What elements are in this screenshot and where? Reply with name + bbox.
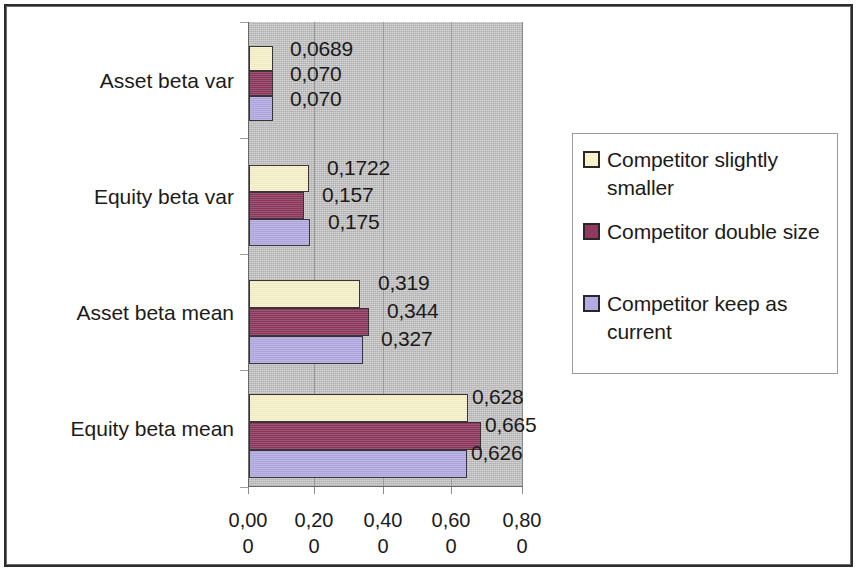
- bar-texture: [250, 166, 308, 191]
- bar-asset-beta-mean-keep-current: [249, 336, 363, 364]
- value-tick-080: [522, 487, 523, 494]
- category-label-asset-beta-var: Asset beta var: [48, 70, 234, 91]
- value-axis-label-080: 0,80 0: [489, 508, 555, 559]
- bar-value-asset-beta-mean-slightly-smaller: 0,319: [378, 272, 430, 293]
- bar-texture: [250, 337, 362, 363]
- bar-equity-beta-mean-slightly-smaller: [249, 394, 468, 422]
- value-axis-label-000: 0,00 0: [215, 508, 281, 559]
- legend-item-competitor-slightly-smaller[interactable]: Competitor slightly smaller: [583, 146, 835, 201]
- category-label-equity-beta-mean: Equity beta mean: [30, 418, 234, 439]
- bar-texture: [250, 72, 272, 95]
- bar-value-equity-beta-var-keep-current: 0,175: [328, 211, 380, 232]
- value-axis-label-060: 0,60 0: [418, 508, 484, 559]
- category-axis-line: [248, 486, 523, 487]
- bar-asset-beta-mean-double-size: [249, 308, 369, 336]
- chart-screenshot: 0,0689 0,070 0,070 0,1722 0,157 0,175 0,…: [0, 0, 861, 575]
- value-axis-label-020: 0,20 0: [281, 508, 347, 559]
- bar-equity-beta-var-slightly-smaller: [249, 165, 309, 192]
- legend-label-keep-current: Competitor keep as current: [607, 290, 835, 345]
- bar-asset-beta-var-keep-current: [249, 96, 273, 121]
- legend: Competitor slightly smaller Competitor d…: [572, 133, 838, 374]
- value-axis-label-040: 0,40 0: [350, 508, 416, 559]
- bar-equity-beta-var-keep-current: [249, 219, 310, 246]
- bar-value-equity-beta-mean-slightly-smaller: 0,628: [472, 386, 524, 407]
- bar-texture: [250, 47, 272, 70]
- bar-asset-beta-mean-slightly-smaller: [249, 280, 360, 308]
- bar-asset-beta-var-double-size: [249, 71, 273, 96]
- bar-value-equity-beta-mean-keep-current: 0,626: [471, 442, 523, 463]
- bar-equity-beta-mean-double-size: [249, 422, 481, 450]
- category-label-equity-beta-var: Equity beta var: [48, 186, 234, 207]
- value-tick-020: [314, 487, 315, 494]
- bar-texture: [250, 423, 480, 449]
- bar-texture: [250, 309, 368, 335]
- bar-value-asset-beta-var-keep-current: 0,070: [290, 88, 342, 109]
- bar-value-asset-beta-mean-keep-current: 0,327: [381, 328, 433, 349]
- bar-texture: [250, 97, 272, 120]
- bar-equity-beta-var-double-size: [249, 192, 304, 219]
- category-tick-4: [240, 487, 248, 488]
- bar-asset-beta-var-slightly-smaller: [249, 46, 273, 71]
- legend-swatch-icon-slightly-smaller: [583, 151, 600, 168]
- bar-equity-beta-mean-keep-current: [249, 450, 467, 478]
- value-tick-040: [383, 487, 384, 494]
- category-tick-3: [240, 370, 248, 371]
- legend-swatch-icon-keep-current: [583, 295, 600, 312]
- value-tick-060: [451, 487, 452, 494]
- category-tick-2: [240, 254, 248, 255]
- bar-texture: [250, 451, 466, 477]
- bar-texture: [250, 281, 359, 307]
- bar-value-equity-beta-var-double-size: 0,157: [322, 184, 374, 205]
- bar-value-equity-beta-var-slightly-smaller: 0,1722: [327, 157, 390, 178]
- value-tick-000: [248, 487, 249, 494]
- bar-value-asset-beta-var-double-size: 0,070: [290, 63, 342, 84]
- legend-label-double-size: Competitor double size: [607, 218, 820, 246]
- legend-swatch-icon-double-size: [583, 223, 600, 240]
- legend-item-competitor-keep-as-current[interactable]: Competitor keep as current: [583, 290, 835, 345]
- category-tick-0: [240, 22, 248, 23]
- legend-label-slightly-smaller: Competitor slightly smaller: [607, 146, 835, 201]
- bar-texture: [250, 193, 303, 218]
- bar-value-equity-beta-mean-double-size: 0,665: [485, 414, 537, 435]
- category-label-asset-beta-mean: Asset beta mean: [38, 302, 234, 323]
- bar-value-asset-beta-var-slightly-smaller: 0,0689: [290, 38, 353, 59]
- legend-item-competitor-double-size[interactable]: Competitor double size: [583, 218, 835, 246]
- bar-texture: [250, 220, 309, 245]
- bar-value-asset-beta-mean-double-size: 0,344: [387, 300, 439, 321]
- category-tick-1: [240, 138, 248, 139]
- bar-texture: [250, 395, 467, 421]
